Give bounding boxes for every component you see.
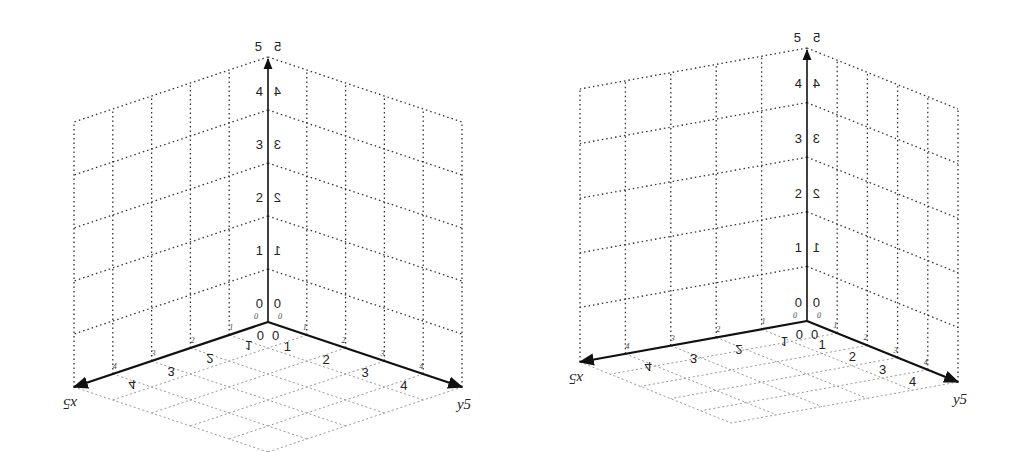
z-axis-label: 5 <box>255 39 262 54</box>
x-tick-small: 4 <box>625 342 629 351</box>
wall-grid-line <box>807 157 958 218</box>
z-tick-label: 3 <box>256 137 263 152</box>
wall-grid-line <box>74 57 268 122</box>
left-3d-axes-panel: 01234012341122334411223344000055x5y5 <box>62 39 471 452</box>
wall-grid-line <box>74 163 268 228</box>
x-tick-label: 2 <box>206 351 213 366</box>
y-axis-label: y5 <box>455 396 472 412</box>
wall-grid-line <box>807 212 958 273</box>
origin-y-zero: 0 <box>811 327 818 342</box>
x-tick-small: 3 <box>670 334 675 343</box>
z-tick-label: 2 <box>795 186 802 201</box>
wall-grid-line <box>268 216 462 281</box>
z-tick-label-mirrored: 3 <box>813 131 820 146</box>
origin-small-zero: 0 <box>817 311 821 320</box>
y-tick-label: 1 <box>284 339 291 354</box>
z-axis-label-mirrored: 5 <box>274 39 281 54</box>
origin-y-zero: 0 <box>272 328 279 343</box>
xz-wall-grid <box>580 48 807 362</box>
right-3d-axes-panel: 01234012341122334411223344000055x5y5 <box>568 30 967 423</box>
y-tick-small: 2 <box>863 333 867 342</box>
x-tick-label: 2 <box>735 342 742 357</box>
x-axis-label: x5 <box>62 396 78 412</box>
wall-grid-line <box>268 57 462 122</box>
floor-grid-line <box>152 348 346 413</box>
y-tick-label: 4 <box>909 374 916 389</box>
y-tick-small: 3 <box>379 349 384 358</box>
floor-grid-line <box>731 382 958 423</box>
floor-grid-line <box>113 335 307 400</box>
wall-grid-line <box>807 48 958 109</box>
x-tick-label: 4 <box>644 359 651 374</box>
wall-grid-line <box>580 103 807 144</box>
floor-grid-line <box>190 361 384 426</box>
x-tick-small: 3 <box>151 349 156 358</box>
x-tick-label: 1 <box>781 334 788 349</box>
z-tick-label: 0 <box>795 295 802 310</box>
3d-axes-figure: 01234012341122334411223344000055x5y5 012… <box>0 0 1029 452</box>
y-tick-label: 2 <box>849 349 856 364</box>
z-tick-label: 2 <box>256 190 263 205</box>
floor-grid-line <box>74 387 268 452</box>
floor-grid-line <box>580 362 731 423</box>
wall-grid-line <box>580 48 807 89</box>
z-tick-label: 3 <box>795 131 802 146</box>
x-tick-small: 1 <box>229 323 233 332</box>
y-axis-label: y5 <box>951 391 968 407</box>
floor-grid-line <box>113 374 307 439</box>
floor-grid-line <box>229 374 423 439</box>
yz-wall-grid <box>268 57 462 387</box>
z-tick-label: 4 <box>795 76 802 91</box>
z-tick-label-mirrored: 2 <box>274 190 281 205</box>
x-tick-small: 4 <box>113 362 117 371</box>
wall-grid-line <box>268 110 462 175</box>
floor-grid-line <box>268 387 462 452</box>
z-axis-label-mirrored: 5 <box>813 30 820 45</box>
y-tick-small: 3 <box>893 346 898 355</box>
z-tick-label-mirrored: 1 <box>274 243 281 258</box>
z-tick-label-mirrored: 4 <box>274 84 281 99</box>
origin-small-zero: 0 <box>278 312 282 321</box>
wall-grid-line <box>580 266 807 307</box>
floor-grid-line <box>152 361 346 426</box>
x-tick-label: 3 <box>690 351 697 366</box>
y-tick-small: 4 <box>419 362 423 371</box>
z-tick-label: 1 <box>256 243 263 258</box>
z-tick-label: 4 <box>256 84 263 99</box>
wall-grid-line <box>268 163 462 228</box>
floor-grid-line <box>671 358 898 399</box>
yz-wall-grid <box>807 48 958 382</box>
x-tick-small: 2 <box>716 325 720 334</box>
z-tick-label-mirrored: 4 <box>813 76 820 91</box>
wall-grid-line <box>268 269 462 334</box>
z-tick-label-mirrored: 2 <box>813 186 820 201</box>
y-tick-label: 4 <box>400 378 407 393</box>
wall-grid-line <box>580 157 807 198</box>
floor-grid-line <box>229 335 423 400</box>
wall-grid-line <box>74 216 268 281</box>
y-tick-label: 2 <box>323 352 330 367</box>
x-tick-label: 4 <box>129 377 136 392</box>
y-tick-label: 3 <box>361 365 368 380</box>
z-axis-label: 5 <box>794 30 801 45</box>
wall-grid-line <box>74 110 268 175</box>
origin-x-zero: 0 <box>257 328 264 343</box>
wall-grid-line <box>807 103 958 164</box>
y-tick-small: 1 <box>833 321 837 330</box>
floor-grid-line <box>701 370 928 411</box>
origin-small-zero: 0 <box>254 312 258 321</box>
z-tick-label-mirrored: 0 <box>274 296 281 311</box>
x-axis-label: x5 <box>568 371 584 387</box>
y-tick-label: 3 <box>879 362 886 377</box>
z-tick-label: 1 <box>795 240 802 255</box>
z-tick-label-mirrored: 3 <box>274 137 281 152</box>
floor-grid-line <box>640 345 867 386</box>
wall-grid-line <box>74 269 268 334</box>
z-tick-label-mirrored: 0 <box>813 295 820 310</box>
floor-grid-line <box>190 348 384 413</box>
x-tick-small: 1 <box>762 317 766 326</box>
x-tick-label: 1 <box>245 338 252 353</box>
origin-small-zero: 0 <box>793 311 797 320</box>
wall-grid-line <box>807 266 958 327</box>
z-tick-label-mirrored: 1 <box>813 240 820 255</box>
